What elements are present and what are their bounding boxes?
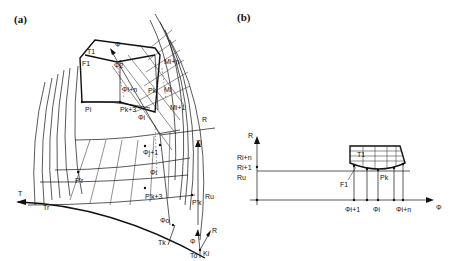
label-F1: F1 xyxy=(82,60,90,67)
label-R-u: Ru xyxy=(205,193,214,200)
label-P-k-prime: P'k xyxy=(192,199,202,206)
label-phi2: Φ2 xyxy=(114,62,124,69)
label-phi-o: Φo xyxy=(160,217,170,224)
label-P-k-plus-3: Pk+3 xyxy=(120,106,136,113)
label-M-i-plus-1: Mi+1 xyxy=(170,104,185,111)
label-T-o: To xyxy=(190,252,198,259)
label-P-k3-prime: P'k+3 xyxy=(145,193,163,200)
label-M-i: Mi xyxy=(164,86,172,93)
label-T-k: Tk xyxy=(158,239,166,246)
y-label-R-i-plus-1: Ri+1 xyxy=(237,164,252,171)
x-label-phi-i-plus-1: Φi+1 xyxy=(345,206,360,213)
x-label-phi-i-plus-n: Φi+n xyxy=(396,206,411,213)
label-P-i: Pi xyxy=(85,106,92,113)
label-R-top: R xyxy=(202,116,207,123)
label-phi-axis: Φ xyxy=(115,41,121,48)
label-T-r: Tr xyxy=(43,204,50,211)
label-P-k: Pk xyxy=(148,87,157,94)
projection-drawing: (b) xyxy=(230,0,450,261)
label-phi-i-plus-n: Φi+n xyxy=(122,86,137,93)
region-label-Pk: Pk xyxy=(380,174,389,181)
label-M-i-plus-n: Mi+n xyxy=(164,58,179,65)
panel-b-label: (b) xyxy=(237,11,251,24)
label-R-small: R xyxy=(212,227,217,234)
label-P-r-prime: P'r xyxy=(75,177,84,184)
region-label-F1: F1 xyxy=(340,181,348,188)
y-label-R-i-plus-n: Ri+n xyxy=(237,154,252,161)
panel-a-3d-surface: (a) xyxy=(0,0,230,261)
label-Z-i: Zi xyxy=(196,139,202,146)
axis-label-phi: Φ xyxy=(436,204,442,211)
surface-drawing: (a) xyxy=(0,0,230,261)
label-phi-j-plus-1: Φj+1 xyxy=(143,149,158,157)
panel-a-label: (a) xyxy=(14,13,27,26)
label-K-i: Ki xyxy=(203,250,210,257)
label-phi-small: Φ xyxy=(190,238,196,245)
label-T1: T1 xyxy=(87,48,95,55)
axis-label-R: R xyxy=(248,132,253,139)
panel-b-projection: (b) xyxy=(230,0,450,261)
region-label-T1: T1 xyxy=(357,151,365,158)
y-label-R-u: Ru xyxy=(237,174,246,181)
label-T: T xyxy=(18,190,23,197)
label-phi-i-sub: Φi xyxy=(138,114,146,121)
label-phi-i: Φi xyxy=(150,169,158,176)
x-label-phi-i: Φi xyxy=(373,206,381,213)
